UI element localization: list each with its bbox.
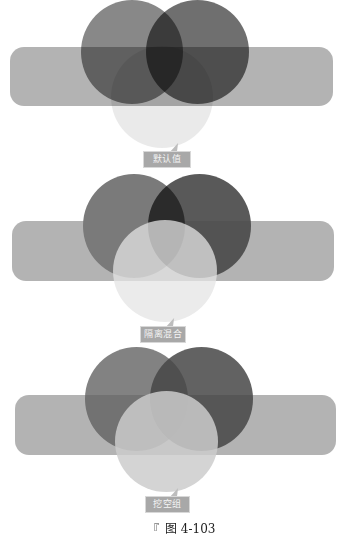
figure-caption: 『图 4-103 [148, 519, 215, 536]
caption-bracket-icon: 『 [148, 523, 159, 536]
caption-text: 图 4-103 [165, 522, 215, 536]
panel-knockout: 挖空组 [0, 0, 343, 515]
circle-bottom [115, 391, 218, 492]
panel-label: 挖空组 [145, 496, 190, 513]
